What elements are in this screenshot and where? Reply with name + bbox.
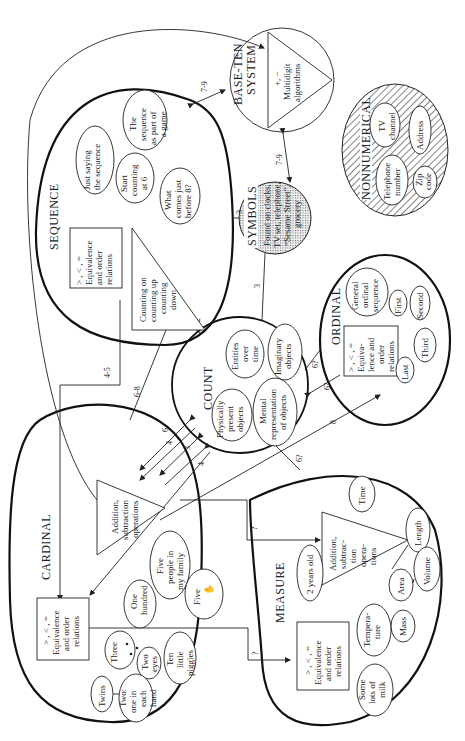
svg-text:Length: Length (413, 520, 423, 546)
svg-text:Physically: Physically (215, 400, 225, 438)
age-label: 6? (295, 454, 304, 462)
number-concepts-diagram: 7-9 7-9 3 3 2 4-5 6-8 6 4 3 4 6? 6? 8 6?… (0, 0, 465, 741)
svg-text:objects: objects (283, 343, 293, 369)
age-label: ? (251, 651, 260, 655)
age-label: 7-9 (200, 81, 209, 92)
svg-text:Tempera-: Tempera- (362, 613, 372, 647)
svg-text:counting up: counting up (148, 279, 158, 322)
svg-text:Twins: Twins (97, 685, 107, 707)
cardinal-content: CARDINAL Addition, subtraction operation… (37, 480, 223, 722)
svg-text:+, −: +, − (272, 71, 282, 86)
svg-text:subtrac-: subtrac- (338, 540, 348, 569)
svg-text:lence and: lence and (366, 337, 376, 372)
svg-text:piggies: piggies (185, 650, 195, 676)
nonnumerical-title: NONNUMERICAL (359, 97, 373, 200)
age-label: 4 (165, 441, 174, 445)
svg-text:What: What (163, 190, 173, 210)
svg-text:hundred: hundred (139, 585, 149, 615)
svg-text:representation: representation (268, 389, 278, 440)
svg-text:milk: milk (377, 681, 387, 698)
count-content: COUNT Entities over time Imaginary objec… (201, 324, 302, 446)
age-label: 3 (235, 210, 244, 214)
svg-text:objects: objects (235, 406, 245, 432)
svg-text:Found on clocks,: Found on clocks, (262, 184, 272, 246)
age-label: 7-9 (275, 154, 284, 165)
svg-text:number: number (392, 169, 402, 197)
measure-title: MEASURE (273, 562, 287, 623)
svg-text:General: General (350, 281, 360, 310)
svg-text:Equivalence: Equivalence (84, 241, 94, 285)
svg-text:Ten: Ten (165, 652, 175, 666)
svg-text:relations: relations (104, 254, 114, 285)
dot-icon (136, 647, 139, 650)
svg-text:Entities: Entities (230, 342, 240, 370)
svg-text:channel: channel (387, 112, 397, 140)
cardinal-title: CARDINAL (39, 514, 53, 580)
svg-text:ture: ture (372, 625, 382, 639)
svg-text:Last: Last (400, 364, 410, 380)
svg-text:tions: tions (368, 547, 378, 565)
svg-text:of objects: of objects (278, 394, 288, 430)
svg-text:sequence: sequence (370, 279, 380, 312)
svg-text:Two:: Two: (118, 689, 128, 707)
svg-text:Equiva-: Equiva- (356, 344, 366, 373)
svg-text:Five: Five (192, 589, 202, 605)
age-label: 6? (323, 382, 332, 390)
age-label: 3 (183, 446, 192, 450)
svg-text:Addition,: Addition, (328, 537, 338, 571)
svg-text:Mental: Mental (258, 398, 268, 424)
svg-text:eyes: eyes (149, 656, 159, 672)
svg-text:code: code (423, 173, 433, 190)
svg-text:First: First (393, 297, 403, 314)
svg-text:people in: people in (165, 550, 175, 584)
svg-text:lots of: lots of (367, 681, 377, 704)
age-label: 6 (161, 428, 170, 432)
age-label: 6? (311, 360, 320, 368)
svg-text:opera-: opera- (358, 544, 368, 567)
dot-icon (130, 653, 133, 656)
svg-text:a game: a game (158, 111, 168, 137)
svg-text:The: The (128, 117, 138, 131)
svg-text:TV set, telephone,: TV set, telephone, (272, 182, 282, 248)
svg-text:Some: Some (357, 679, 367, 700)
svg-text:Just saying: Just saying (82, 150, 92, 190)
ordinal-content: ORDINAL > , < , = Equiva- lence and orde… (329, 268, 436, 383)
svg-text:sequence: sequence (138, 108, 148, 141)
svg-text:Address: Address (415, 120, 425, 150)
svg-text:SYSTEM: SYSTEM (244, 45, 258, 95)
svg-text:the sequence: the sequence (92, 144, 102, 190)
age-label: 3 (253, 284, 262, 288)
svg-text:Multidigit: Multidigit (282, 63, 292, 100)
age-label: 6-8 (133, 386, 142, 397)
svg-text:> , < , =: > , < , = (346, 343, 356, 372)
svg-text:Time: Time (357, 486, 367, 505)
svg-text:comes just: comes just (173, 179, 183, 218)
svg-text:my family: my family (175, 552, 185, 590)
svg-text:TV: TV (377, 120, 387, 132)
svg-text:ordinal: ordinal (360, 282, 370, 308)
age-label: 8 (329, 420, 338, 424)
svg-text:and order: and order (61, 617, 71, 651)
svg-text:Five: Five (155, 558, 165, 574)
svg-text:counting: counting (129, 164, 139, 196)
svg-text:Mass: Mass (398, 617, 408, 636)
svg-text:hand: hand (148, 689, 158, 707)
svg-text:> , < , =: > , < , = (303, 646, 313, 675)
svg-text:Equivalence: Equivalence (51, 611, 61, 655)
svg-text:at 6: at 6 (139, 176, 149, 190)
svg-text:and order: and order (323, 647, 333, 681)
svg-text:2 years old: 2 years old (305, 554, 315, 594)
svg-text:Three: Three (109, 642, 119, 663)
age-label: 4-5 (103, 367, 112, 378)
svg-text:One: One (129, 594, 139, 609)
svg-text:Third: Third (420, 338, 430, 358)
svg-text:over: over (240, 346, 250, 362)
svg-text:Second: Second (415, 292, 425, 319)
svg-text:relations: relations (333, 646, 343, 677)
svg-text:and order: and order (94, 251, 104, 285)
ordinal-title: ORDINAL (329, 288, 343, 346)
sequence-content: SEQUENCE > , < , = Equivalence and order… (47, 90, 205, 330)
svg-text:relations: relations (386, 341, 396, 372)
svg-text:little: little (175, 651, 185, 668)
svg-text:present: present (225, 406, 235, 432)
